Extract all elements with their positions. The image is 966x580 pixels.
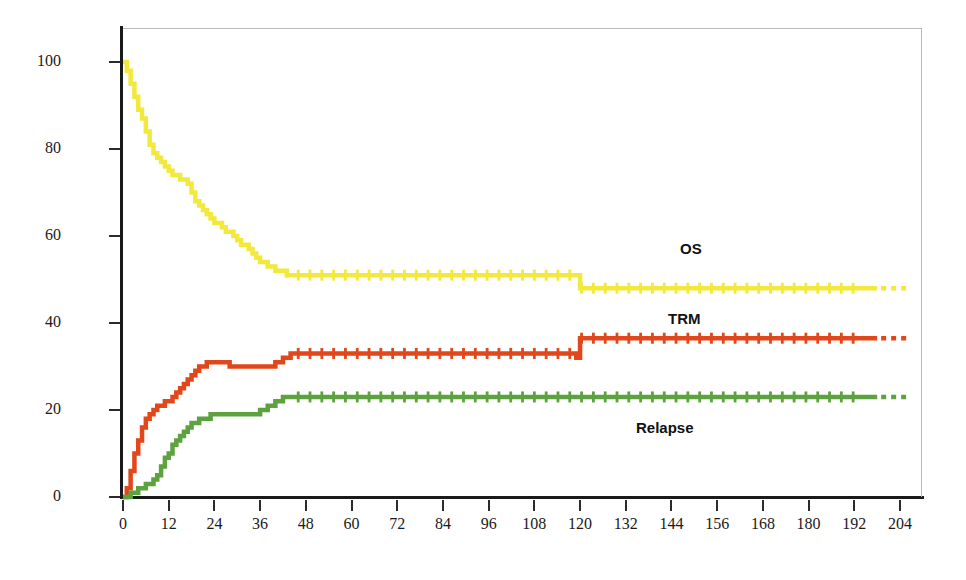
- kaplan-meier-chart: Probability % 020406080100 0122436486072…: [0, 0, 966, 580]
- survival-curves: [0, 0, 966, 580]
- curve-label-os: OS: [680, 240, 702, 257]
- curve-label-relapse: Relapse: [636, 419, 694, 436]
- curve-trm: [123, 338, 877, 497]
- curve-os: [123, 62, 877, 288]
- curve-relapse: [123, 397, 877, 497]
- curve-label-trm: TRM: [668, 310, 701, 327]
